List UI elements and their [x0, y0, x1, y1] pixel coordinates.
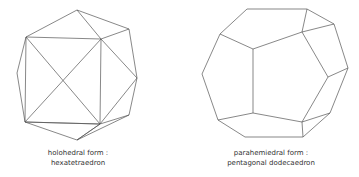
caption-line-1: holohedral form :	[0, 148, 158, 158]
caption-hexatetraedron: holohedral form : hexatetraedron	[0, 148, 158, 168]
pentagonal-dodecaedron-drawing	[202, 9, 348, 137]
caption-line-1: parahemiedral form :	[191, 148, 351, 158]
caption-pentagonal-dodecaedron: parahemiedral form : pentagonal dodecaed…	[191, 148, 351, 168]
caption-line-2: pentagonal dodecaedron	[191, 158, 351, 168]
caption-line-2: hexatetraedron	[0, 158, 158, 168]
hexatetraedron-drawing	[17, 10, 137, 140]
